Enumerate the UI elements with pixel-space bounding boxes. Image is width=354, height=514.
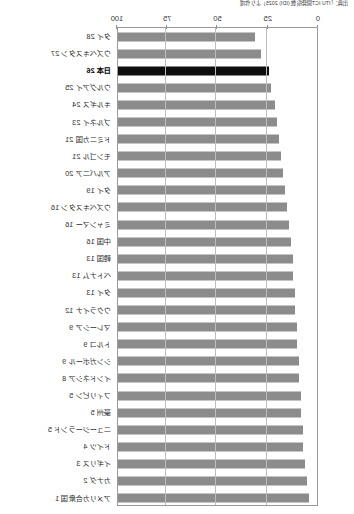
bar [118, 323, 297, 332]
bar-row [118, 284, 317, 301]
bar-row [118, 387, 317, 404]
x-tick-label: 50 [213, 14, 221, 23]
category-label: タイ 13 [0, 283, 115, 300]
category-label: アメリカ合衆国 1 [0, 489, 115, 506]
bar-row [118, 199, 317, 216]
bar-row [118, 250, 317, 267]
bar [118, 494, 309, 503]
bar [118, 391, 301, 400]
category-label: 中国 16 [0, 232, 115, 249]
bar [118, 83, 271, 92]
plot-area [117, 27, 318, 506]
bar [118, 288, 295, 297]
category-label: 豪州 5 [0, 403, 115, 420]
category-label: ミャンマー 16 [0, 215, 115, 232]
bar [118, 340, 297, 349]
category-label: ドミニカ国 21 [0, 130, 115, 147]
category-label: ウズベキスタン 27 [0, 44, 115, 61]
category-labels: タイ 28ウズベキスタン 27日本 26ウルグアイ 25キルギス 24ブルネイ … [0, 27, 115, 506]
bar [118, 135, 279, 144]
bar [118, 152, 281, 161]
bar-row [118, 319, 317, 336]
source-note: 出典：「ITU ICT開発指数 (IDI) 2025」より作成 [0, 0, 354, 6]
bar-row [118, 79, 317, 96]
bar-row [118, 404, 317, 421]
bar-row [118, 370, 317, 387]
category-label: ニュージーランド 5 [0, 420, 115, 437]
x-tick-label: 0 [316, 14, 320, 23]
bar [118, 49, 261, 58]
x-axis: 1007550250 [0, 14, 354, 28]
bar-row [118, 28, 317, 45]
bar [118, 186, 285, 195]
bar [118, 32, 255, 41]
gridline [165, 28, 166, 505]
category-label: ウクライナ 12 [0, 301, 115, 318]
category-label: ドイツ 4 [0, 437, 115, 454]
category-label: キルギス 24 [0, 95, 115, 112]
x-tick-label: 75 [163, 14, 171, 23]
category-label: タイ 28 [0, 27, 115, 44]
bar-row [118, 165, 317, 182]
category-label: ベトナム 13 [0, 266, 115, 283]
x-tick-label: 100 [111, 14, 124, 23]
bar-rows [118, 28, 317, 505]
category-label: ブルネイ 23 [0, 112, 115, 129]
bar-row [118, 302, 317, 319]
category-label: トルコ 9 [0, 335, 115, 352]
bar-chart-figure: 出典：「ITU ICT開発指数 (IDI) 2025」より作成 10075502… [0, 0, 354, 514]
category-label: ウズベキスタン 16 [0, 198, 115, 215]
bar [118, 220, 289, 229]
category-label: イギリス 3 [0, 454, 115, 471]
category-label: タイ 19 [0, 181, 115, 198]
bar-row [118, 113, 317, 130]
x-tick-label: 25 [264, 14, 272, 23]
bar-row [118, 148, 317, 165]
bar-row [118, 131, 317, 148]
bar [118, 425, 303, 434]
bar-highlighted [118, 66, 269, 75]
bar [118, 306, 295, 315]
category-label: インドネシア 8 [0, 369, 115, 386]
bar [118, 408, 301, 417]
category-label: カナダ 2 [0, 471, 115, 488]
category-label: 日本 26 [0, 61, 115, 78]
category-label: マレーシア 9 [0, 318, 115, 335]
bar-row [118, 182, 317, 199]
bar-row [118, 490, 317, 507]
bar-row [118, 472, 317, 489]
bar-row [118, 336, 317, 353]
category-label: シンガポール 9 [0, 352, 115, 369]
category-label: フィリピン 5 [0, 386, 115, 403]
bar [118, 459, 305, 468]
bar [118, 374, 299, 383]
bar [118, 203, 287, 212]
bar-row [118, 421, 317, 438]
gridline [266, 28, 267, 505]
bar [118, 442, 303, 451]
bar-row [118, 455, 317, 472]
bar-row [118, 233, 317, 250]
category-label: 韓国 13 [0, 249, 115, 266]
category-label: ウルグアイ 25 [0, 78, 115, 95]
bar [118, 118, 277, 127]
category-label: アルバニア 20 [0, 164, 115, 181]
gridline [216, 28, 217, 505]
bar [118, 357, 299, 366]
bar-row [118, 45, 317, 62]
bar [118, 476, 307, 485]
bar [118, 169, 283, 178]
bar-row [118, 96, 317, 113]
bar [118, 100, 275, 109]
bar-row [118, 438, 317, 455]
bar-row [118, 267, 317, 284]
bar-row [118, 216, 317, 233]
bar-row [118, 353, 317, 370]
bar-row [118, 62, 317, 79]
category-label: モンゴル 21 [0, 147, 115, 164]
